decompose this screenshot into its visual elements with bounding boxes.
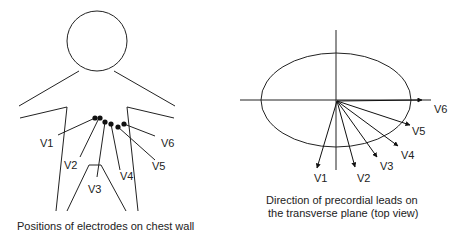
label-right-v2: V2 bbox=[357, 172, 370, 184]
vector-v2 bbox=[337, 101, 355, 167]
vector-v1 bbox=[317, 101, 337, 168]
electrode-v3 bbox=[102, 119, 107, 124]
label-left-v5: V5 bbox=[152, 160, 165, 172]
label-right-v1: V1 bbox=[314, 172, 327, 184]
label-left-v6: V6 bbox=[161, 137, 174, 149]
label-right-v3: V3 bbox=[380, 160, 393, 172]
right-caption-line1: Direction of precordial leads on bbox=[266, 194, 418, 207]
label-left-v1: V1 bbox=[40, 137, 53, 149]
label-left-v4: V4 bbox=[120, 170, 133, 182]
electrode-v5 bbox=[115, 124, 120, 129]
electrode-v6 bbox=[121, 121, 126, 126]
label-left-v3: V3 bbox=[88, 183, 101, 195]
label-right-v4: V4 bbox=[401, 149, 414, 161]
label-right-v6: V6 bbox=[434, 103, 447, 115]
label-left-v2: V2 bbox=[64, 159, 77, 171]
electrode-v4 bbox=[108, 121, 113, 126]
vector-v5 bbox=[337, 101, 410, 125]
right-caption-line2: the transverse plane (top view) bbox=[268, 207, 418, 220]
left-caption: Positions of electrodes on chest wall bbox=[17, 220, 194, 233]
vector-v3 bbox=[337, 101, 377, 157]
head bbox=[67, 11, 127, 71]
label-right-v5: V5 bbox=[412, 125, 425, 137]
electrode-v1 bbox=[92, 115, 97, 120]
vector-v4 bbox=[337, 101, 398, 146]
electrode-v2 bbox=[97, 115, 102, 120]
electrode-dots bbox=[92, 115, 126, 129]
body-outline bbox=[19, 11, 175, 211]
